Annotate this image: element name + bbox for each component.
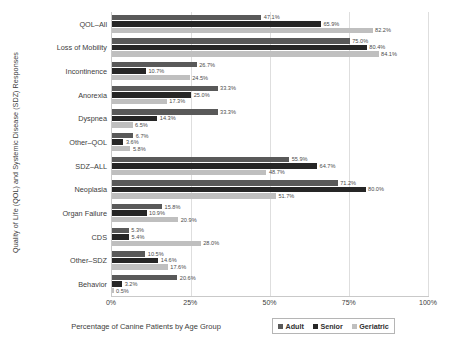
bar-adult[interactable] [112,133,133,138]
bar-wrapper: 33.3% [112,109,428,114]
bar-wrapper: 80.0% [112,187,428,192]
bar-geriatric[interactable] [112,241,201,246]
bar-geriatric[interactable] [112,99,167,104]
gridline-100 [428,12,429,296]
bar-senior[interactable] [112,187,366,192]
bar-value-label: 0.5% [116,288,129,294]
bar-adult[interactable] [112,204,162,209]
category-label: Neoplasia [75,185,107,194]
bar-value-label: 14.6% [161,257,177,263]
bar-senior[interactable] [112,234,129,239]
bar-wrapper: 26.7% [112,62,428,67]
category-label: CDS [92,232,107,241]
bar-value-label: 20.6% [180,275,196,281]
bar-wrapper: 3.2% [112,281,428,286]
bar-adult[interactable] [112,86,218,91]
x-tick-label: 100% [419,299,437,306]
bar-geriatric[interactable] [112,193,276,198]
bar-senior[interactable] [112,21,321,26]
bar-senior[interactable] [112,45,367,50]
bar-geriatric[interactable] [112,146,130,151]
bar-adult[interactable] [112,251,145,256]
chart-legend: Adult Senior Geriatric [272,318,395,334]
bar-group: 20.6%3.2%0.5% [112,272,428,296]
bar-value-label: 65.9% [323,21,339,27]
bar-wrapper: 17.3% [112,99,428,104]
bar-wrapper: 24.5% [112,75,428,80]
bar-senior[interactable] [112,92,191,97]
bar-wrapper: 3.6% [112,139,428,144]
bar-geriatric[interactable] [112,51,379,56]
bar-senior[interactable] [112,68,146,73]
bar-adult[interactable] [112,228,129,233]
bar-geriatric[interactable] [112,75,190,80]
bar-wrapper: 5.8% [112,146,428,151]
bar-value-label: 51.7% [278,193,294,199]
bar-geriatric[interactable] [112,122,133,127]
bar-adult[interactable] [112,38,350,43]
bar-value-label: 80.4% [369,44,385,50]
legend-label-adult: Adult [286,322,304,331]
bar-group: 33.3%25.0%17.3% [112,83,428,107]
legend-swatch-senior [313,324,318,329]
category-label: Incontinence [66,67,107,76]
bar-senior[interactable] [112,116,157,121]
bar-wrapper: 80.4% [112,45,428,50]
bar-wrapper: 71.2% [112,180,428,185]
category-label: Dyspnea [78,114,107,123]
bar-adult[interactable] [112,109,218,114]
bar-group: 71.2%80.0%51.7% [112,178,428,202]
bar-value-label: 33.3% [220,109,236,115]
bar-geriatric[interactable] [112,288,114,293]
bar-wrapper: 5.3% [112,228,428,233]
category-label: Behavior [78,280,107,289]
bar-geriatric[interactable] [112,170,266,175]
bar-geriatric[interactable] [112,217,178,222]
bar-value-label: 5.3% [131,227,144,233]
bar-group: 33.3%14.3%6.5% [112,107,428,131]
bar-value-label: 10.9% [149,210,165,216]
category-row: QOL–All47.1%65.9%82.2% [112,12,428,36]
bar-wrapper: 14.3% [112,116,428,121]
bar-group: 26.7%10.7%24.5% [112,59,428,83]
bar-geriatric[interactable] [112,264,168,269]
x-tick-label: 0% [106,299,116,306]
x-axis-line [111,296,429,297]
category-label: SDZ–ALL [75,161,107,170]
bar-adult[interactable] [112,275,177,280]
category-label: Other–SDZ [70,256,107,265]
legend-swatch-adult [278,324,283,329]
bar-wrapper: 64.7% [112,163,428,168]
bar-value-label: 75.0% [352,38,368,44]
bar-value-label: 71.2% [340,180,356,186]
bar-value-label: 6.7% [136,133,149,139]
bar-value-label: 17.3% [169,98,185,104]
category-row: Anorexia33.3%25.0%17.3% [112,83,428,107]
bar-group: 15.8%10.9%20.9% [112,201,428,225]
bar-wrapper: 55.9% [112,157,428,162]
bar-wrapper: 84.1% [112,51,428,56]
y-axis-title: Quality of Life (QOL) and Systemic Disea… [11,8,20,298]
bar-value-label: 15.8% [165,204,181,210]
bar-senior[interactable] [112,210,147,215]
bar-senior[interactable] [112,281,122,286]
bar-adult[interactable] [112,62,197,67]
bar-wrapper: 28.0% [112,241,428,246]
bar-wrapper: 25.0% [112,92,428,97]
bar-senior[interactable] [112,258,158,263]
bar-wrapper: 51.7% [112,193,428,198]
bar-geriatric[interactable] [112,28,373,33]
bar-adult[interactable] [112,15,261,20]
bar-wrapper: 47.1% [112,15,428,20]
bar-value-label: 5.8% [133,146,146,152]
bar-senior[interactable] [112,139,123,144]
bar-wrapper: 20.6% [112,275,428,280]
bar-chart: Quality of Life (QOL) and Systemic Disea… [0,0,457,346]
bar-wrapper: 10.7% [112,68,428,73]
bar-senior[interactable] [112,163,317,168]
bar-adult[interactable] [112,157,289,162]
category-label: Anorexia [78,90,107,99]
bar-group: 47.1%65.9%82.2% [112,12,428,36]
bar-value-label: 48.7% [269,169,285,175]
bar-adult[interactable] [112,180,338,185]
